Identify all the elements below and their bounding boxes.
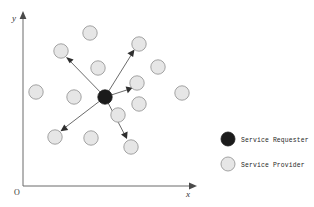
service-provider-node[interactable] — [132, 37, 146, 51]
service-provider-node[interactable] — [67, 90, 81, 104]
service-provider-node[interactable] — [132, 97, 146, 111]
y-axis-arrowhead — [20, 11, 27, 19]
legend-item-service-provider[interactable]: Service Provider — [221, 157, 305, 171]
service-provider-node[interactable] — [84, 131, 98, 145]
origin-label: O — [14, 188, 20, 197]
service-requester-node[interactable] — [98, 90, 112, 104]
service-provider-node[interactable] — [151, 60, 165, 74]
legend: Service Requester Service Provider — [221, 132, 309, 171]
service-provider-node[interactable] — [130, 76, 144, 90]
legend-label-service-provider: Service Provider — [241, 162, 305, 169]
axis-group: x y O — [11, 11, 197, 199]
legend-item-service-requester[interactable]: Service Requester — [221, 132, 309, 146]
link-arrowhead-5 — [121, 132, 128, 139]
service-provider-node[interactable] — [124, 140, 138, 154]
service-provider-node[interactable] — [91, 61, 105, 75]
service-provider-node[interactable] — [111, 108, 125, 122]
service-provider-node[interactable] — [48, 130, 62, 144]
link-edge — [61, 97, 106, 131]
y-axis-label: y — [11, 13, 16, 23]
diagram-canvas: x y O — [0, 0, 314, 207]
service-provider-node[interactable] — [83, 26, 97, 40]
x-axis-label: x — [185, 189, 190, 199]
legend-swatch-requester-icon — [221, 132, 235, 146]
service-provider-node[interactable] — [54, 44, 68, 58]
service-provider-node[interactable] — [175, 86, 189, 100]
legend-swatch-provider-icon — [221, 157, 235, 171]
service-provider-node[interactable] — [29, 85, 43, 99]
x-axis-arrowhead — [189, 183, 197, 190]
scatter-diagram-svg: x y O — [0, 0, 314, 207]
legend-label-service-requester: Service Requester — [241, 137, 309, 144]
link-arrowhead-1 — [66, 57, 74, 63]
